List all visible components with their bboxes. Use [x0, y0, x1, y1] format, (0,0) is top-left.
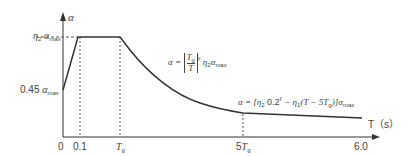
y-tick-top: η2 αmax — [33, 31, 61, 42]
spectrum-diagram — [0, 0, 407, 156]
x-axis-arrow-icon — [372, 134, 380, 140]
x-tick-tg: Tg — [116, 142, 125, 153]
y-axis-arrow-icon — [60, 12, 66, 21]
x-axis-label: T（s） — [368, 120, 399, 130]
x-tick-01: 0.1 — [73, 142, 87, 152]
y-axis-label: α — [68, 12, 74, 23]
line-formula: α = [η2 0.2γ − η1(T − 5Tg)]αmax — [238, 95, 354, 108]
x-tick-0: 0 — [58, 142, 64, 152]
y-tick-start: 0.45 αmax — [20, 85, 59, 96]
curve-formula: α = Tg T γ η2αmax — [168, 53, 227, 73]
x-tick-5tg: 5Tg — [236, 142, 250, 153]
x-tick-6: 6.0 — [354, 142, 368, 152]
